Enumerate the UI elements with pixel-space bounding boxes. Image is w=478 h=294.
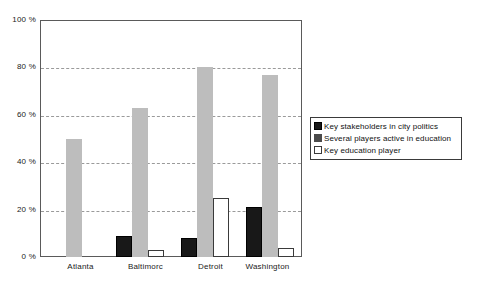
bar-washington-key-stakeholders bbox=[246, 207, 262, 257]
legend-swatch-icon bbox=[314, 146, 322, 154]
bar-detroit-key-stakeholders bbox=[181, 238, 197, 257]
legend-item-key-education-player: Key education player bbox=[314, 144, 458, 156]
bar-atlanta-several-players bbox=[66, 139, 82, 258]
y-axis-tick-label: 40 % bbox=[0, 158, 36, 166]
legend-swatch-icon bbox=[314, 134, 322, 142]
legend-item-label: Several players active in education bbox=[324, 134, 451, 143]
y-axis-tick-label: 20 % bbox=[0, 206, 36, 214]
legend-item-key-stakeholders: Key stakeholders in city politics bbox=[314, 120, 458, 132]
chart-legend: Key stakeholders in city politics Severa… bbox=[310, 117, 462, 160]
y-axis-tick-label: 60 % bbox=[0, 111, 36, 119]
bar-baltimorc-key-education-player bbox=[148, 250, 164, 257]
bars-layer bbox=[40, 20, 302, 257]
y-axis: 100 % 80 % 60 % 40 % 20 % 0 % bbox=[0, 20, 36, 257]
legend-item-several-players: Several players active in education bbox=[314, 132, 458, 144]
bar-chart: 100 % 80 % 60 % 40 % 20 % 0 % bbox=[0, 0, 478, 294]
bar-washington-several-players bbox=[262, 75, 278, 258]
bar-detroit-several-players bbox=[197, 67, 213, 257]
bar-baltimorc-several-players bbox=[132, 108, 148, 257]
bar-group-detroit bbox=[178, 20, 235, 257]
bar-detroit-key-education-player bbox=[213, 198, 229, 257]
x-axis-tick-label-washington: Washington bbox=[227, 262, 308, 272]
bar-washington-key-education-player bbox=[278, 248, 294, 258]
legend-swatch-icon bbox=[314, 122, 322, 130]
legend-item-label: Key education player bbox=[324, 146, 401, 155]
bar-group-baltimorc bbox=[113, 20, 170, 257]
bar-baltimorc-key-stakeholders bbox=[116, 236, 132, 257]
y-axis-tick-label: 0 % bbox=[0, 253, 36, 261]
y-axis-tick-label: 100 % bbox=[0, 16, 36, 24]
bar-group-atlanta bbox=[48, 20, 105, 257]
x-axis: Atlanta Baltimorc Detroit Washington bbox=[40, 262, 302, 278]
bar-group-washington bbox=[243, 20, 300, 257]
legend-item-label: Key stakeholders in city politics bbox=[324, 122, 438, 131]
y-axis-tick-label: 80 % bbox=[0, 63, 36, 71]
